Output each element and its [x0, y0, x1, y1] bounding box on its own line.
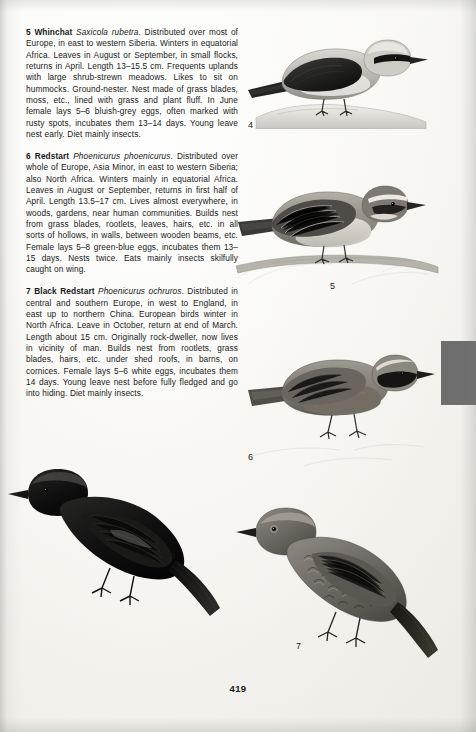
page-edge-marker-bar [441, 341, 476, 405]
entry-latin-name: Phoenicurus ochruros [98, 286, 181, 296]
beak [410, 57, 428, 64]
entry-body: . Distributed over most of Europe, in ea… [26, 27, 238, 139]
figure-label-3: 3 [170, 551, 175, 561]
bird-illustration-whinchat [232, 160, 442, 290]
entry-latin-name: Saxicola rubetra [76, 27, 139, 37]
entry-common-name: Whinchat [34, 27, 72, 37]
species-entry-whinchat: 5 Whinchat Saxicola rubetra. Distributed… [26, 27, 238, 140]
beak [8, 490, 28, 499]
entry-number: 6 [26, 151, 31, 161]
beak [417, 371, 435, 379]
entry-latin-name: Phoenicurus phoenicurus [73, 151, 170, 161]
entry-body: . Distributed over whole of Europe, Asia… [26, 151, 238, 274]
book-page: 5 Whinchat Saxicola rubetra. Distributed… [0, 0, 476, 732]
figure-label-6: 6 [248, 452, 253, 462]
bird-illustration-black-redstart-female [212, 492, 452, 672]
entry-common-name: Redstart [35, 151, 69, 161]
background-twigs [252, 445, 424, 466]
entry-common-name: Black Redstart [34, 286, 94, 296]
text-column: 5 Whinchat Saxicola rubetra. Distributed… [26, 27, 238, 410]
legs [320, 414, 366, 439]
tail [390, 602, 438, 658]
bird-illustration-wheatear [238, 14, 438, 129]
bird-illustration-redstart [244, 330, 440, 470]
illustration-plate-3 [6, 452, 226, 652]
entry-number: 5 [26, 27, 31, 37]
entry-body: . Distributed in central and southern Eu… [26, 286, 238, 398]
figure-label-5: 5 [330, 281, 335, 291]
page-number: 419 [0, 683, 476, 694]
illustration-plate-5 [232, 160, 442, 290]
bird-illustration-black-redstart-male [6, 452, 226, 652]
illustration-plate-6 [244, 330, 440, 470]
illustration-plate-7 [212, 492, 452, 672]
rock-perch [256, 105, 426, 130]
beak [407, 202, 426, 210]
species-entry-black-redstart: 7 Black Redstart Phoenicurus ochruros. D… [26, 286, 238, 399]
figure-label-7: 7 [296, 641, 301, 651]
entry-number: 7 [26, 286, 31, 296]
beak [236, 528, 256, 537]
figure-label-4: 4 [248, 120, 253, 130]
illustration-plate-4 [238, 14, 438, 129]
species-entry-redstart: 6 Redstart Phoenicurus phoenicurus. Dist… [26, 151, 238, 276]
